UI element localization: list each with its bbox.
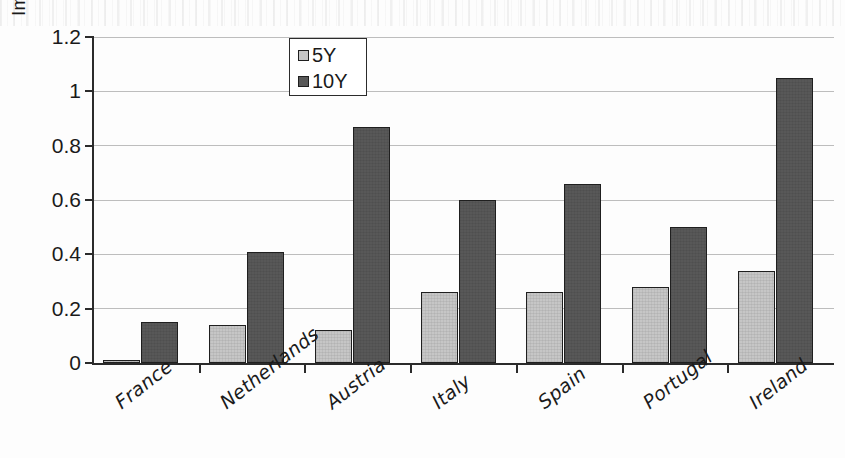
x-axis-tick (622, 363, 624, 373)
y-axis-tick (85, 90, 94, 92)
bar-austria-10y[interactable] (353, 127, 390, 363)
plot-area: 00.20.40.60.811.2 (92, 37, 834, 365)
y-axis-tick-label: 1.2 (52, 25, 81, 49)
y-axis-tick-label: 1 (69, 79, 81, 103)
y-axis-title: Implied probability (6, 0, 32, 100)
bar-netherlands-5y[interactable] (209, 325, 246, 363)
y-axis-tick (85, 253, 94, 255)
bar-ireland-10y[interactable] (776, 78, 813, 363)
legend-swatch-10y-icon (298, 76, 309, 87)
x-axis-label-spain: Spain (533, 362, 590, 413)
y-axis-tick-label: 0.4 (52, 242, 81, 266)
legend-label-5y: 5Y (312, 45, 336, 65)
scan-noise-band (0, 0, 845, 26)
bar-italy-10y[interactable] (459, 200, 496, 363)
y-axis-tick (85, 199, 94, 201)
y-axis-title-container: Implied probability (0, 36, 30, 364)
x-axis-tick (199, 363, 201, 373)
x-axis-label-italy: Italy (427, 369, 474, 413)
chart-legend[interactable]: 5Y 10Y (289, 38, 367, 96)
gridline (94, 37, 834, 38)
x-axis-tick (304, 363, 306, 373)
gridline (94, 145, 834, 146)
bar-portugal-5y[interactable] (632, 287, 669, 363)
legend-swatch-5y-icon (298, 50, 309, 61)
x-axis-tick (410, 363, 412, 373)
bar-italy-5y[interactable] (421, 292, 458, 363)
y-axis-tick-label: 0 (69, 351, 81, 375)
legend-item-5y[interactable]: 5Y (298, 42, 366, 68)
y-axis-tick (85, 362, 94, 364)
chart-figure: Implied probability 00.20.40.60.811.2 5Y… (0, 0, 845, 458)
y-axis-tick-label: 0.6 (52, 188, 81, 212)
bar-france-5y[interactable] (103, 360, 140, 363)
gridline (94, 91, 834, 92)
legend-label-10y: 10Y (312, 71, 348, 91)
x-axis-tick (516, 363, 518, 373)
y-axis-tick (85, 145, 94, 147)
bar-ireland-5y[interactable] (738, 271, 775, 363)
legend-item-10y[interactable]: 10Y (298, 68, 366, 94)
bar-spain-10y[interactable] (564, 184, 601, 363)
bar-austria-5y[interactable] (315, 330, 352, 363)
x-axis-tick (727, 363, 729, 373)
bar-portugal-10y[interactable] (670, 227, 707, 363)
y-axis-tick-label: 0.8 (52, 133, 81, 157)
y-axis-tick-label: 0.2 (52, 296, 81, 320)
y-axis-tick (85, 308, 94, 310)
bar-spain-5y[interactable] (526, 292, 563, 363)
y-axis-tick (85, 36, 94, 38)
